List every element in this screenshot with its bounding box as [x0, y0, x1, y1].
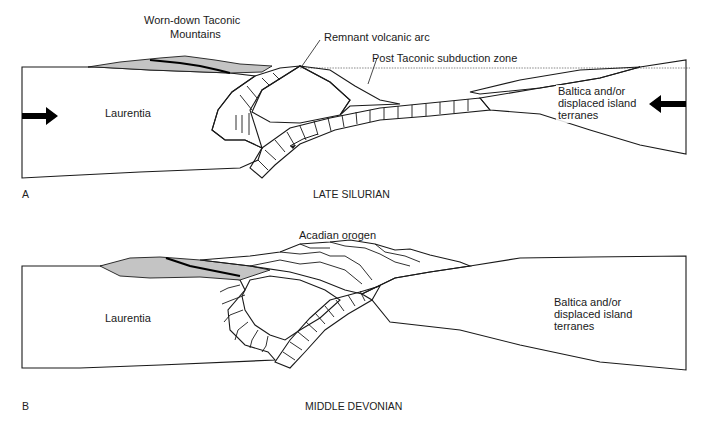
subducting-slab: [275, 286, 380, 368]
label-baltica-a-3: terranes: [558, 109, 599, 121]
slab-segments: [258, 99, 468, 170]
convergence-arrow-east-icon: [22, 107, 58, 125]
slab-segments: [283, 291, 365, 360]
label-baltica-a-1: Baltica and/or: [558, 85, 626, 97]
panel-letter-a: A: [22, 188, 29, 200]
tectonic-diagram: Worn-down Taconic Mountains Remnant volc…: [0, 0, 707, 429]
label-taconic-mountains-2: Mountains: [170, 28, 221, 40]
label-laurentia-a: Laurentia: [105, 107, 152, 119]
label-baltica-b-2: displaced island: [554, 308, 632, 320]
label-baltica-b-3: terranes: [554, 320, 595, 332]
panel-caption-b: MIDDLE DEVONIAN: [305, 400, 402, 412]
panel-a: Worn-down Taconic Mountains Remnant volc…: [22, 14, 690, 200]
label-subduction-zone: Post Taconic subduction zone: [372, 52, 517, 64]
arc-leader-line: [302, 40, 320, 66]
taconic-sediment: [100, 257, 270, 280]
label-laurentia-b: Laurentia: [105, 312, 152, 324]
panel-caption-a: LATE SILURIAN: [313, 188, 390, 200]
label-taconic-mountains-1: Worn-down Taconic: [144, 14, 241, 26]
label-acadian-orogen: Acadian orogen: [299, 229, 376, 241]
taconic-sediment: [88, 56, 272, 73]
accretionary-wedge: [212, 66, 300, 148]
panel-letter-b: B: [22, 400, 29, 412]
baltica-crust: [362, 256, 686, 370]
volcanic-arc-body: [252, 66, 350, 123]
label-volcanic-arc: Remnant volcanic arc: [324, 31, 430, 43]
label-baltica-b-1: Baltica and/or: [554, 296, 622, 308]
label-baltica-a-2: displaced island: [558, 97, 636, 109]
convergence-arrow-west-icon: [649, 95, 686, 113]
pluton-root-lines: [220, 285, 268, 352]
panel-b: Acadian orogen Laurentia Baltica and/or …: [22, 229, 686, 412]
laurentia-crust: [22, 67, 262, 178]
